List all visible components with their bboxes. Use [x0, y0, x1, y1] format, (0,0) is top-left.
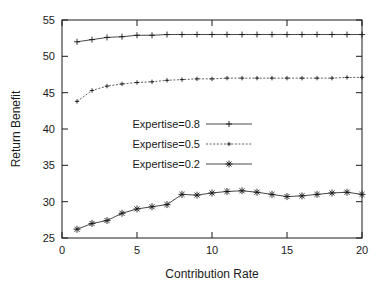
plot-frame — [62, 20, 362, 238]
x-tick-label-3: 15 — [281, 244, 293, 256]
legend-label-2: Expertise=0.2 — [132, 158, 200, 170]
x-tick-label-1: 5 — [134, 244, 140, 256]
y-tick-label-4: 45 — [43, 87, 55, 99]
y-tick-label-1: 30 — [43, 196, 55, 208]
legend-label-0: Expertise=0.8 — [132, 118, 200, 130]
chart-container: 25 30 35 40 45 50 55 0 5 10 15 20 Contri… — [0, 0, 391, 289]
y-tick-label-5: 50 — [43, 50, 55, 62]
y-tick-label-3: 40 — [43, 123, 55, 135]
x-tick-label-2: 10 — [206, 244, 218, 256]
y-tick-label-6: 55 — [43, 14, 55, 26]
x-axis-title: Contribution Rate — [165, 267, 259, 281]
x-tick-label-0: 0 — [59, 244, 65, 256]
y-tick-label-2: 35 — [43, 159, 55, 171]
x-tick-label-4: 20 — [356, 244, 368, 256]
y-tick-label-0: 25 — [43, 232, 55, 244]
y-axis-title: Return Benefit — [9, 90, 23, 167]
line-chart: 25 30 35 40 45 50 55 0 5 10 15 20 Contri… — [0, 0, 391, 289]
legend-label-1: Expertise=0.5 — [132, 138, 200, 150]
